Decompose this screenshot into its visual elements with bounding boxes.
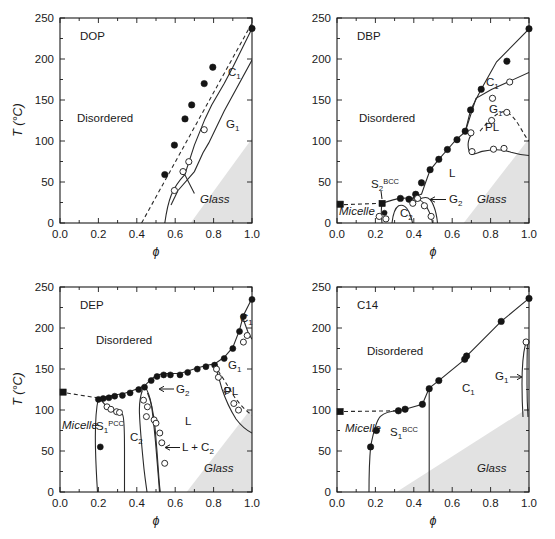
dop-x-tick-labels: 0.0 0.2 0.4 0.6 0.8 1.0	[52, 228, 260, 240]
svg-text:0.4: 0.4	[129, 228, 146, 240]
dep-region-pl: PL	[224, 385, 239, 397]
dop-region-disordered: Disordered	[77, 112, 133, 124]
svg-text:0.8: 0.8	[483, 497, 499, 509]
dbp-x-axis-title: ϕ	[430, 245, 437, 259]
dep-x-tick-labels: 0.0 0.2 0.4 0.6 0.8 1.0	[52, 497, 260, 509]
c14-data-points-open	[523, 339, 529, 345]
svg-text:200: 200	[35, 322, 54, 334]
svg-text:50: 50	[41, 445, 54, 457]
svg-text:1.0: 1.0	[521, 497, 537, 509]
dep-y-axis-title: T (°C)	[11, 372, 25, 405]
svg-text:0.4: 0.4	[129, 497, 146, 509]
dbp-region-g1: G1	[489, 103, 503, 118]
c14-data-points-squares	[337, 409, 343, 415]
dop-y-tick-labels: 0 50 100 150 200 250	[35, 12, 54, 229]
c14-region-c1: C1	[462, 382, 475, 397]
dbp-region-g2: G2	[449, 193, 463, 208]
svg-text:50: 50	[318, 445, 331, 457]
panel-c14: 0 50 100 150 200 250 0.0 0.2 0.4 0.6 0.8…	[277, 269, 555, 539]
dep-region-micelle: Micelle	[62, 419, 98, 431]
svg-text:200: 200	[312, 53, 331, 65]
glass-region-dop	[191, 139, 252, 224]
svg-text:250: 250	[35, 281, 54, 293]
dep-region-liquid: L	[185, 415, 192, 427]
svg-text:0.8: 0.8	[483, 228, 499, 240]
dbp-region-disordered: Disordered	[359, 112, 415, 124]
dep-lc2-arrow	[165, 445, 180, 450]
svg-text:200: 200	[312, 322, 331, 334]
c14-x-axis-title: ϕ	[430, 514, 437, 528]
svg-text:0.0: 0.0	[329, 228, 345, 240]
dop-region-glass: Glass	[200, 193, 230, 205]
dop-region-c1: C1	[228, 66, 241, 81]
dep-region-c1: C1	[240, 312, 253, 327]
dep-region-c2: C2	[130, 431, 143, 446]
svg-text:0.6: 0.6	[444, 228, 460, 240]
svg-text:0.8: 0.8	[206, 228, 222, 240]
dbp-region-s2bcc: S2BCC	[371, 177, 400, 193]
dbp-y-tick-labels: 0 50 100 150 200 250	[312, 12, 331, 229]
dbp-x-tick-labels: 0.0 0.2 0.4 0.6 0.8 1.0	[329, 228, 537, 240]
dep-x-axis-title: ϕ	[153, 514, 160, 528]
dop-y-axis-title: T (°C)	[11, 103, 25, 136]
dep-region-disordered: Disordered	[96, 334, 152, 346]
svg-text:0.0: 0.0	[52, 497, 68, 509]
figure-phase-diagrams: 0 50 100 150 200 250 0.0 0.2 0.4 0.6 0.8…	[0, 0, 555, 539]
svg-text:1.0: 1.0	[521, 228, 537, 240]
svg-text:150: 150	[312, 363, 331, 375]
dep-g2-curve	[145, 386, 160, 492]
dep-region-g1: G1	[228, 359, 242, 374]
svg-text:100: 100	[312, 404, 331, 416]
svg-text:50: 50	[318, 176, 331, 188]
c14-micelle-left-boundary	[369, 447, 371, 492]
dop-region-g1: G1	[226, 118, 240, 133]
c14-region-disordered: Disordered	[367, 345, 423, 357]
c14-region-micelle: Micelle	[345, 422, 381, 434]
dop-panel-title: DOP	[80, 30, 105, 42]
dep-region-glass: Glass	[204, 462, 234, 474]
dop-odt-curve	[165, 175, 195, 223]
svg-text:0.6: 0.6	[167, 497, 183, 509]
c14-region-s1bcc: S1BCC	[390, 425, 419, 441]
svg-text:150: 150	[35, 94, 54, 106]
svg-text:150: 150	[35, 363, 54, 375]
svg-text:0.0: 0.0	[52, 228, 68, 240]
svg-text:0.2: 0.2	[90, 228, 106, 240]
svg-text:0.4: 0.4	[406, 228, 423, 240]
svg-text:200: 200	[35, 53, 54, 65]
c14-region-glass: Glass	[477, 462, 507, 474]
c14-g1-boundary-right	[527, 343, 528, 417]
dep-region-l-plus-c2: L + C2	[182, 441, 214, 456]
svg-text:100: 100	[35, 404, 54, 416]
svg-text:0.6: 0.6	[167, 228, 183, 240]
panel-dop: 0 50 100 150 200 250 0.0 0.2 0.4 0.6 0.8…	[0, 0, 278, 270]
dep-g2-arrow	[159, 386, 174, 391]
dbp-g2-arrow	[430, 197, 446, 202]
c14-panel-title: C14	[357, 299, 379, 311]
svg-text:1.0: 1.0	[244, 228, 260, 240]
svg-text:0.6: 0.6	[444, 497, 460, 509]
svg-text:0.2: 0.2	[367, 497, 383, 509]
svg-text:250: 250	[312, 281, 331, 293]
dop-x-axis-title: ϕ	[153, 245, 160, 259]
svg-text:100: 100	[35, 135, 54, 147]
svg-text:1.0: 1.0	[244, 497, 260, 509]
c14-g1-boundary-left	[522, 344, 526, 417]
svg-text:150: 150	[312, 94, 331, 106]
c14-y-tick-labels: 0 50 100 150 200 250	[312, 281, 331, 498]
svg-text:250: 250	[312, 12, 331, 24]
dbp-panel-title: DBP	[357, 30, 381, 42]
svg-text:0.2: 0.2	[367, 228, 383, 240]
panel-dbp: 0 50 100 150 200 250 0.0 0.2 0.4 0.6 0.8…	[277, 0, 555, 270]
glass-region-c14	[397, 408, 530, 493]
dep-region-g2: G2	[176, 383, 190, 398]
svg-text:0.0: 0.0	[329, 497, 345, 509]
c14-g1-arrow	[510, 374, 522, 379]
dep-region-s1pcc: S1PCC	[96, 419, 125, 435]
dbp-region-glass: Glass	[477, 193, 507, 205]
c14-region-g1: G1	[495, 370, 509, 385]
dbp-region-liquid: L	[449, 167, 456, 179]
svg-text:0.4: 0.4	[406, 497, 423, 509]
svg-text:250: 250	[35, 12, 54, 24]
dbp-region-micelle: Micelle	[339, 205, 375, 217]
